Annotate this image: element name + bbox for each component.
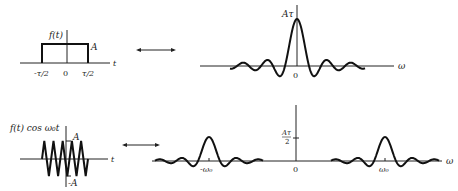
transform-arrow-bottom [122, 143, 160, 147]
sinc-spectrum-plot: Aτ 0 ω [200, 5, 406, 80]
zero-label: 0 [63, 69, 68, 78]
half-peak-denominator: 2 [285, 138, 289, 146]
amplitude-label: A [90, 42, 98, 52]
transform-arrow-top [136, 48, 176, 52]
f-cos-label: f(t) cos ω₀t [9, 123, 60, 133]
t-label: t [111, 155, 115, 164]
omega-label: ω [446, 156, 454, 166]
omega-label: ω [398, 61, 406, 71]
sinc-curve-neg [155, 137, 263, 166]
diagram: f(t) A t -τ/2 0 τ/2 Aτ 0 ω f(t) cos ω₀t … [0, 0, 458, 191]
f-of-t-label: f(t) [48, 30, 63, 40]
neg-amplitude-label: -A [68, 178, 78, 188]
neg-half-tau-label: -τ/2 [34, 69, 49, 78]
sinc-curve-pos [331, 137, 439, 166]
pos-half-tau-label: τ/2 [82, 69, 94, 78]
t-label: t [113, 59, 117, 68]
rect-pulse [42, 44, 88, 63]
neg-omega0-label: -ω₀ [200, 165, 213, 174]
pos-omega0-label: ω₀ [379, 165, 390, 174]
rect-pulse-plot: f(t) A t -τ/2 0 τ/2 [20, 30, 117, 78]
zero-label: 0 [293, 71, 298, 80]
peak-label: Aτ [281, 9, 294, 19]
zero-label: 0 [293, 165, 298, 174]
pos-amplitude-label: A [72, 132, 80, 142]
half-peak-numerator: Aτ [281, 129, 291, 137]
modulated-pulse-plot: f(t) cos ω₀t A -A t [9, 123, 115, 188]
shifted-spectrum-plot: Aτ 2 -ω₀ 0 ω₀ ω [152, 105, 454, 174]
